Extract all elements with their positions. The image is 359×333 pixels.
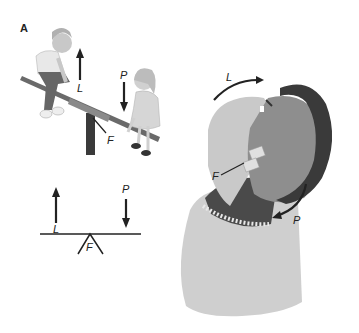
girl-figure [128, 68, 160, 156]
schematic-power-label: P [122, 183, 130, 195]
head-neck-illustration: L P F [181, 71, 332, 316]
seesaw-power-label: P [120, 69, 128, 81]
schematic-load-label: L [53, 223, 59, 235]
lever-diagram: L P F L P F [0, 0, 359, 333]
schematic-fulcrum-label: F [86, 241, 94, 253]
seesaw-fulcrum-label: F [107, 134, 115, 146]
lever-schematic: L P F [40, 183, 141, 254]
head-power-label: P [293, 214, 301, 226]
seesaw-load-label: L [77, 82, 83, 94]
head-load-label: L [226, 71, 232, 83]
boy-figure [36, 28, 72, 118]
seesaw-illustration: L P F [20, 28, 160, 156]
